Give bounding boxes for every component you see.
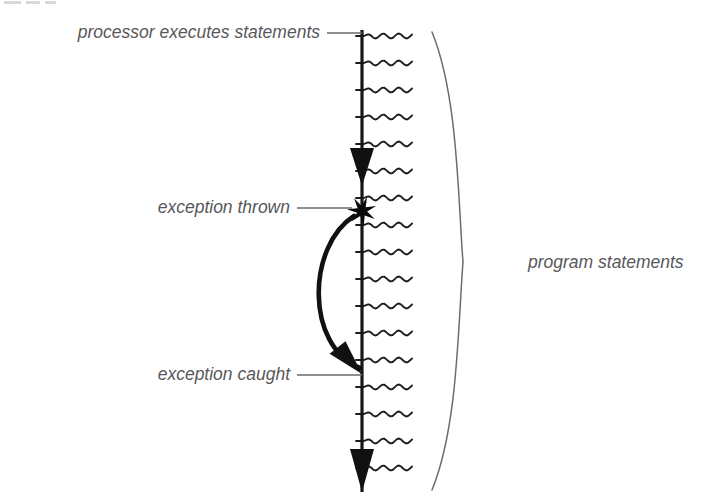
leader-lines-group [297,33,362,375]
statement-line [356,223,412,228]
statement-line [356,34,412,39]
statement-line [356,277,412,282]
scan-artifact [4,1,56,4]
statement-line [356,250,412,255]
program-statements-brace [432,32,463,490]
exception-propagation-arrow [319,216,362,374]
label-processor-executes-statements: processor executes statements [77,22,320,42]
exception-flow-diagram: processor executes statements exception … [0,0,723,502]
statement-line [356,61,412,66]
label-exception-thrown: exception thrown [158,197,290,217]
statement-line [356,331,412,336]
statement-line [356,88,412,93]
label-program-statements: program statements [527,252,684,272]
lower-execution-arrow [350,449,374,492]
statement-line [356,439,412,444]
diagram-canvas: processor executes statements exception … [0,0,723,502]
statement-line [356,385,412,390]
statement-line [356,142,412,147]
statement-line [356,115,412,120]
statement-line [356,304,412,309]
label-exception-caught: exception caught [158,364,291,384]
statement-line [356,358,412,363]
statement-line [356,412,412,417]
statement-line [356,196,412,201]
statement-lines-group [356,34,412,471]
upper-execution-arrow [350,148,374,186]
